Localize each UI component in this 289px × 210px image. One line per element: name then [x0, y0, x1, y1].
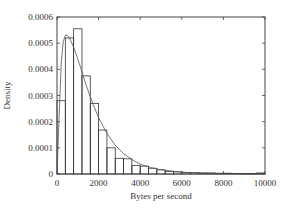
x-tick-label: 4000 — [131, 178, 150, 188]
y-tick-label: 0.0004 — [28, 64, 53, 74]
histogram-bar — [82, 76, 90, 174]
histogram-chart: 0200040006000800010000 00.00010.00020.00… — [0, 0, 289, 210]
y-axis-label: Density — [2, 81, 12, 109]
x-axis-ticks: 0200040006000800010000 — [55, 17, 277, 188]
histogram-bar — [132, 166, 140, 174]
x-tick-label: 0 — [55, 178, 60, 188]
x-tick-label: 6000 — [173, 178, 192, 188]
histogram-bar — [124, 159, 132, 174]
y-tick-label: 0 — [49, 169, 54, 179]
histogram-bar — [149, 168, 157, 174]
histogram-bar — [99, 130, 107, 174]
histogram-bar — [115, 158, 123, 174]
y-axis-ticks: 00.00010.00020.00030.00040.00050.0006 — [28, 12, 265, 179]
y-tick-label: 0.0006 — [28, 12, 53, 22]
y-tick-label: 0.0001 — [28, 143, 53, 153]
x-axis-label: Bytes per second — [130, 191, 192, 201]
y-tick-label: 0.0003 — [28, 91, 53, 101]
histogram-bar — [65, 38, 73, 174]
y-tick-label: 0.0005 — [28, 38, 53, 48]
density-curve — [57, 35, 265, 174]
plot-frame — [57, 17, 265, 174]
histogram-bars — [57, 29, 265, 174]
x-tick-label: 10000 — [254, 178, 277, 188]
histogram-bar — [107, 148, 115, 174]
histogram-bar — [140, 166, 148, 174]
x-tick-label: 8000 — [214, 178, 233, 188]
y-tick-label: 0.0002 — [28, 117, 53, 127]
x-tick-label: 2000 — [90, 178, 109, 188]
